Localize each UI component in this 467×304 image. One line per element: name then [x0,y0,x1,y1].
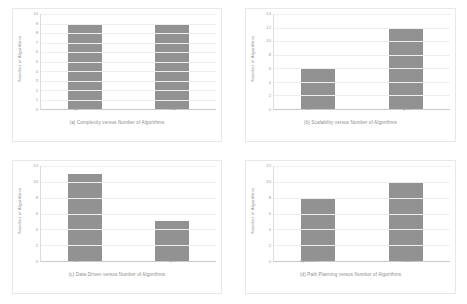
x-tick-c-0: no [26,258,124,263]
y-tick-b-6: 6 [269,67,271,71]
plot-canvas-a [40,14,216,110]
bar-a-low[interactable] [155,24,189,110]
x-tick-labels-d: dynamicstatic [259,258,456,263]
y-tick-a-6: 6 [36,50,38,54]
gridline-a-9 [41,24,216,25]
gridline-d-8 [274,198,450,199]
chart-caption-d: (d) Path Planning versus Number of Algor… [245,272,456,277]
chart-panel-b: Number of Algorithms 02468101214 noyes (… [233,0,467,152]
plot-canvas-b [273,14,450,110]
x-tick-labels-a: highlow [26,106,222,111]
y-axis-label-text-b: Number of Algorithms [251,35,256,81]
y-tick-c-4: 4 [36,228,38,232]
y-tick-labels-c: 024681012 [26,166,40,262]
gridline-d-10 [274,182,450,183]
y-tick-a-9: 9 [36,21,38,25]
plot-canvas-c [40,166,216,262]
chart-caption-c: (c) Data-Driven versus Number of Algorit… [12,272,222,277]
y-tick-c-2: 2 [36,244,38,248]
gridline-c-8 [41,198,216,199]
gridline-c-10 [41,182,216,183]
gridline-c-2 [41,245,216,246]
bar-c-yes[interactable] [155,221,189,261]
y-tick-d-6: 6 [269,212,271,216]
bar-d-static[interactable] [389,182,423,261]
gridline-d-12 [274,166,450,167]
y-tick-d-4: 4 [269,228,271,232]
gridline-b-8 [274,55,450,56]
y-tick-b-14: 14 [266,12,271,16]
gridline-c-6 [41,214,216,215]
y-tick-b-8: 8 [269,53,271,57]
gridline-a-4 [41,71,216,72]
x-tick-d-1: static [358,258,457,263]
y-tick-a-5: 5 [36,60,38,64]
y-axis-label-text-d: Number of Algorithms [251,187,256,233]
gridline-d-2 [274,245,450,246]
y-tick-labels-a: 012345678910 [26,14,40,110]
gridline-b-2 [274,95,450,96]
gridline-a-6 [41,52,216,53]
chart-panel-d: Number of Algorithms 024681012 dynamicst… [233,152,467,304]
x-tick-a-0: high [26,106,124,111]
y-tick-a-3: 3 [36,79,38,83]
bar-b-no[interactable] [301,68,335,109]
gridline-b-6 [274,68,450,69]
gridline-a-7 [41,43,216,44]
plot-area-d: 024681012 [259,166,450,262]
chart-caption-b: (b) Scalability versus Number of Algorit… [245,120,456,125]
gridline-d-6 [274,214,450,215]
y-tick-labels-d: 024681012 [259,166,273,262]
y-tick-labels-b: 02468101214 [259,14,273,110]
gridline-c-4 [41,229,216,230]
gridline-a-1 [41,100,216,101]
plot-area-c: 024681012 [26,166,216,262]
gridline-a-3 [41,81,216,82]
x-tick-b-0: no [259,106,358,111]
gridline-b-4 [274,82,450,83]
gridline-a-2 [41,90,216,91]
y-tick-d-8: 8 [269,196,271,200]
gridline-b-12 [274,28,450,29]
x-tick-a-1: low [124,106,222,111]
plot-canvas-d [273,166,450,262]
y-tick-c-12: 12 [33,164,38,168]
gridline-b-14 [274,14,450,15]
y-tick-d-2: 2 [269,244,271,248]
x-tick-labels-b: noyes [259,106,456,111]
x-tick-c-1: yes [124,258,222,263]
y-axis-label-d: Number of Algorithms [247,160,259,260]
figure-grid: Number of Algorithms 012345678910 highlo… [0,0,467,304]
x-tick-d-0: dynamic [259,258,358,263]
bar-a-high[interactable] [68,24,102,110]
y-tick-b-10: 10 [266,39,271,43]
y-axis-label-b: Number of Algorithms [247,8,259,108]
x-tick-labels-c: noyes [26,258,222,263]
gridline-d-4 [274,229,450,230]
y-axis-label-text-a: Number of Algorithms [18,35,23,81]
y-tick-a-10: 10 [33,12,38,16]
y-axis-label-a: Number of Algorithms [14,8,26,108]
plot-area-b: 02468101214 [259,14,450,110]
y-tick-a-2: 2 [36,89,38,93]
y-tick-c-10: 10 [33,180,38,184]
y-tick-b-12: 12 [266,26,271,30]
gridline-a-10 [41,14,216,15]
y-tick-a-1: 1 [36,98,38,102]
y-axis-label-c: Number of Algorithms [14,160,26,260]
gridline-c-12 [41,166,216,167]
y-tick-a-4: 4 [36,69,38,73]
y-tick-d-10: 10 [266,180,271,184]
y-tick-b-2: 2 [269,94,271,98]
y-tick-d-12: 12 [266,164,271,168]
y-tick-c-6: 6 [36,212,38,216]
chart-panel-c: Number of Algorithms 024681012 noyes (c)… [0,152,233,304]
x-tick-b-1: yes [358,106,457,111]
chart-caption-a: (a) Complexity versus Number of Algorith… [12,120,222,125]
y-tick-a-7: 7 [36,41,38,45]
y-tick-c-8: 8 [36,196,38,200]
plot-area-a: 012345678910 [26,14,216,110]
chart-panel-a: Number of Algorithms 012345678910 highlo… [0,0,233,152]
y-tick-b-4: 4 [269,80,271,84]
bar-c-no[interactable] [68,174,102,261]
